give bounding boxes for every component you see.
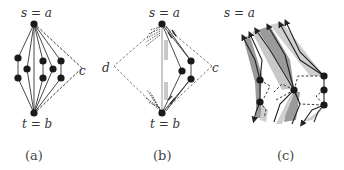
- panel-b-caption: (b): [153, 148, 171, 163]
- panel-a-caption: (a): [25, 148, 43, 163]
- panel-b-dashed-boundary: [114, 24, 212, 113]
- panel-b-nodes: [158, 20, 194, 116]
- panel-a: s = a t = b c: [14, 6, 86, 163]
- panel-b-label-c: c: [212, 61, 219, 75]
- panel-a-bottom-label: t = b: [22, 117, 52, 131]
- panel-c-top-label: s = a: [224, 6, 255, 20]
- panel-a-nodes: [14, 20, 64, 116]
- panel-a-dashed-edges: [34, 24, 82, 113]
- figure: s = a t = b c: [0, 0, 344, 170]
- panel-b-shading: [164, 40, 168, 100]
- panel-c: s = a: [224, 6, 328, 163]
- panel-a-top-label: s = a: [21, 6, 52, 20]
- panel-c-caption: (c): [277, 148, 294, 163]
- panel-b-bottom-label: t = b: [150, 117, 180, 131]
- panel-b-top-label: s = a: [149, 6, 180, 20]
- panel-b-label-d: d: [102, 61, 110, 75]
- panel-b: s = a t = b d c: [102, 6, 219, 163]
- panel-b-dashed-fan-bottom: [146, 90, 160, 110]
